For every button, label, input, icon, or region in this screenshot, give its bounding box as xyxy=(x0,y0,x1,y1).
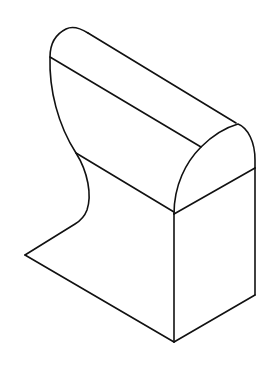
middle-edge xyxy=(76,153,174,212)
isometric-drawing: Isometric line drawing of an extruded so… xyxy=(0,0,276,365)
bottom-right-edge xyxy=(174,295,255,342)
right-mid-edge xyxy=(174,168,255,214)
bottom-left-edge xyxy=(25,255,174,342)
top-edge xyxy=(50,57,201,147)
isometric-solid-svg xyxy=(0,0,276,365)
top-ridge-edge xyxy=(88,33,236,123)
